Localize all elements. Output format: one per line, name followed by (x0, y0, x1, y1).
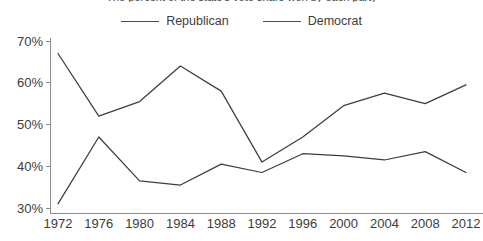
x-tick-label: 1972 (44, 216, 73, 231)
x-tick-label: 1988 (207, 216, 236, 231)
y-tick-label: 70% (17, 34, 43, 49)
y-axis: 30%40%50%60%70% (17, 34, 50, 216)
x-axis: 1972197619801984198819921996200020042008… (44, 213, 483, 231)
x-tick-label: 1980 (125, 216, 154, 231)
plot-area: 30%40%50%60%70% 197219761980198419881992… (0, 0, 483, 241)
y-tick-label: 40% (17, 159, 43, 174)
series-line-republican (58, 54, 466, 163)
x-tick-label: 2004 (370, 216, 399, 231)
y-tick-label: 50% (17, 117, 43, 132)
x-tick-label: 1996 (288, 216, 317, 231)
series-line-democrat (58, 137, 466, 204)
x-tick-label: 1992 (248, 216, 277, 231)
y-tick-label: 30% (17, 201, 43, 216)
line-chart: The percent of the state's vote share wo… (0, 0, 483, 241)
series-container (58, 54, 466, 204)
plot-svg: 30%40%50%60%70% 197219761980198419881992… (0, 0, 483, 241)
x-tick-label: 1976 (84, 216, 113, 231)
x-tick-label: 2000 (329, 216, 358, 231)
y-tick-label: 60% (17, 75, 43, 90)
x-tick-label: 2008 (411, 216, 440, 231)
x-tick-label: 1984 (166, 216, 195, 231)
x-tick-label: 2012 (452, 216, 481, 231)
